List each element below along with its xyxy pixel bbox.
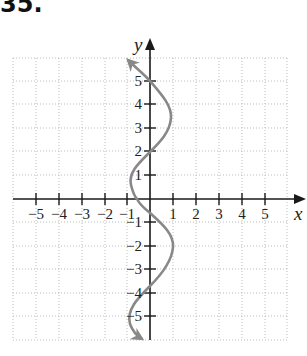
y-tick-label: 4 [135, 96, 143, 112]
x-tick-label: 3 [215, 206, 223, 222]
x-tick-label: −4 [51, 206, 67, 222]
x-tick-label: −5 [28, 206, 44, 222]
x-tick-label: 4 [238, 206, 246, 222]
x-tick-label: −2 [97, 206, 113, 222]
y-tick-label: −2 [126, 238, 142, 254]
x-tick-label: 2 [192, 206, 200, 222]
y-tick-label: 1 [135, 167, 143, 183]
x-tick-label: 5 [261, 206, 269, 222]
x-tick-label: 1 [169, 206, 177, 222]
y-tick-label: 5 [135, 73, 143, 89]
x-tick-label: −3 [74, 206, 90, 222]
y-tick-label: −4 [126, 285, 142, 301]
y-tick-label: −1 [126, 214, 142, 230]
axes [13, 48, 296, 340]
x-axis-label: x [293, 203, 303, 224]
y-tick-label: 2 [135, 143, 143, 159]
graph: −5 −4 −3 −2 −1 1 2 3 4 5 5 4 3 2 1 −1 −2… [0, 0, 307, 356]
y-tick-label: −5 [126, 308, 142, 324]
y-tick-label: 3 [135, 120, 143, 136]
y-axis-arrow-icon [145, 38, 155, 50]
y-tick-label: −3 [126, 261, 142, 277]
x-tick-labels: −5 −4 −3 −2 −1 1 2 3 4 5 [28, 206, 269, 222]
y-axis-label: y [132, 34, 143, 55]
